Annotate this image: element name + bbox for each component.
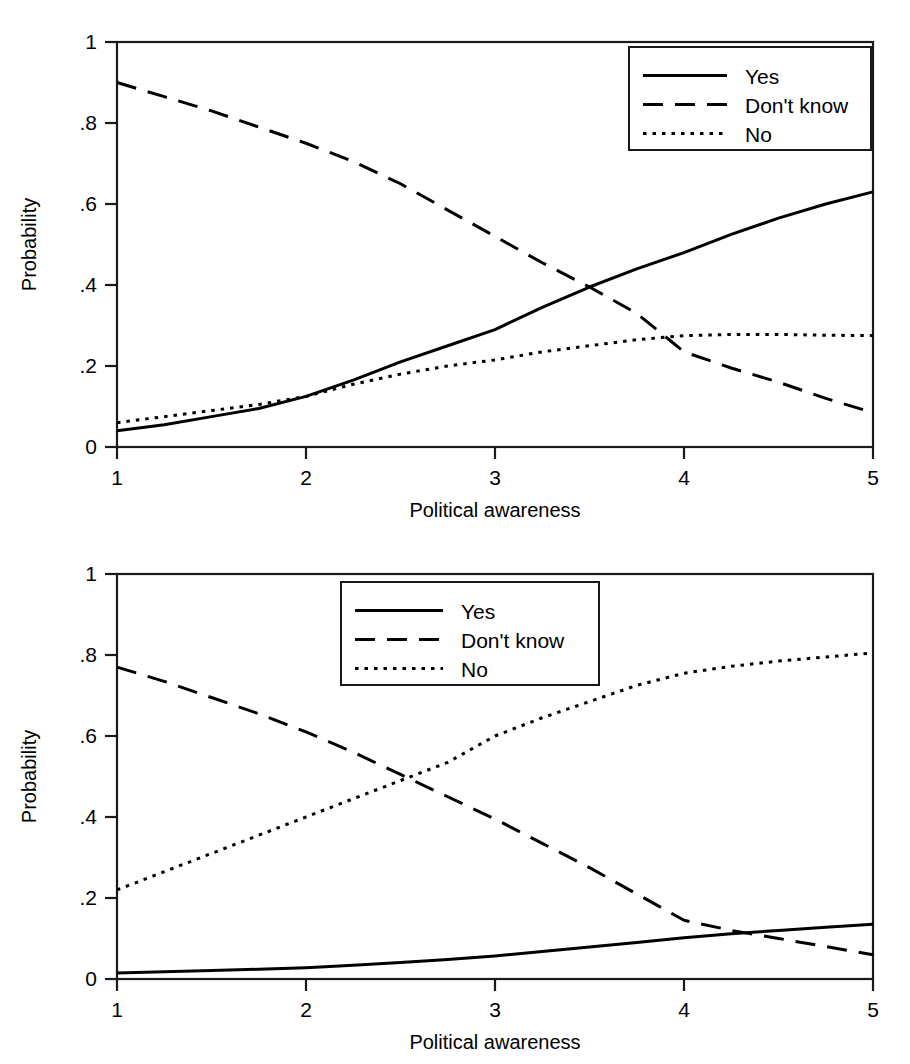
- y-tick-label: 1: [85, 30, 97, 53]
- x-tick-label: 1: [111, 466, 123, 489]
- chart-canvas: 0.2.4.6.8112345Political awarenessProbab…: [0, 0, 910, 532]
- legend-label: Don't know: [461, 629, 565, 652]
- y-tick-label: .8: [79, 111, 97, 134]
- x-tick-label: 3: [489, 466, 501, 489]
- legend-label: Don't know: [745, 94, 849, 117]
- chart-canvas: 0.2.4.6.8112345Political awarenessProbab…: [0, 532, 910, 1064]
- legend-label: No: [461, 658, 488, 681]
- x-tick-label: 3: [489, 998, 501, 1021]
- series-line-yes: [117, 192, 873, 431]
- y-tick-label: 1: [85, 562, 97, 585]
- y-tick-label: .6: [79, 724, 97, 747]
- x-tick-label: 4: [678, 998, 690, 1021]
- x-axis-title: Political awareness: [409, 1031, 580, 1053]
- x-tick-label: 5: [867, 998, 879, 1021]
- legend-label: Yes: [745, 65, 779, 88]
- x-tick-label: 2: [300, 998, 312, 1021]
- y-tick-label: .4: [79, 805, 97, 828]
- y-tick-label: .2: [79, 354, 97, 377]
- y-tick-label: .4: [79, 273, 97, 296]
- y-tick-label: .8: [79, 643, 97, 666]
- series-line-no: [117, 334, 873, 422]
- y-tick-label: 0: [85, 435, 97, 458]
- y-tick-label: .6: [79, 192, 97, 215]
- x-tick-label: 4: [678, 466, 690, 489]
- series-line-don-t-know: [117, 667, 873, 955]
- series-line-no: [117, 653, 873, 890]
- x-tick-label: 5: [867, 466, 879, 489]
- legend-label: Yes: [461, 600, 495, 623]
- y-axis-title: Probability: [18, 730, 40, 823]
- x-axis-title: Political awareness: [409, 499, 580, 521]
- legend-label: No: [745, 123, 772, 146]
- x-tick-label: 1: [111, 998, 123, 1021]
- x-tick-label: 2: [300, 466, 312, 489]
- y-tick-label: .2: [79, 886, 97, 909]
- series-line-yes: [117, 924, 873, 973]
- y-axis-title: Probability: [18, 198, 40, 291]
- top-chart-panel: 0.2.4.6.8112345Political awarenessProbab…: [0, 0, 910, 532]
- bottom-chart-panel: 0.2.4.6.8112345Political awarenessProbab…: [0, 532, 910, 1064]
- y-tick-label: 0: [85, 967, 97, 990]
